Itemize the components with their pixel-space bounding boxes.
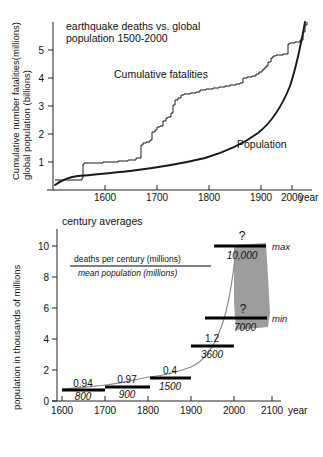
legend-denominator: mean population (millions) — [78, 268, 177, 278]
bar-denominator-1600-1700: 800 — [75, 391, 92, 402]
top-chart-xlabel: year — [299, 192, 319, 203]
bar-numerator-1900-2000: 1.2 — [205, 333, 219, 344]
bar-denominator-min: 7000 — [234, 322, 257, 333]
min-label: min — [272, 313, 287, 324]
top-chart-ylabel-line1: Cumulative number fatalities(millions) — [10, 22, 21, 180]
figure-container: Cumulative number fatalities(millions) g… — [0, 0, 323, 457]
top-chart-xtick-1800: 1800 — [198, 192, 221, 203]
legend-numerator: deaths per century (millions) — [74, 254, 181, 264]
bar-denominator-1900-2000: 3600 — [201, 349, 224, 360]
bottom-chart-xtick-1600: 1600 — [51, 405, 74, 416]
max-label: max — [272, 241, 291, 252]
bottom-chart-xtick-2000: 2000 — [223, 405, 246, 416]
bottom-chart-ytick-2: 2 — [43, 365, 49, 376]
population-curve — [55, 22, 305, 185]
top-chart-title-line1: earthquake deaths vs. global — [66, 20, 200, 32]
top-chart-y-ticks: 1 2 3 4 5 — [38, 45, 53, 168]
top-chart-xtick-1700: 1700 — [146, 192, 169, 203]
legend-fraction: deaths per century (millions) mean popul… — [70, 254, 211, 278]
top-chart-ylabel-line2: global population (billions) — [21, 70, 32, 180]
top-chart-ylabel: Cumulative number fatalities(millions) g… — [10, 22, 32, 180]
top-chart-xtick-1600: 1600 — [94, 192, 117, 203]
bottom-chart-xlabel: year — [288, 405, 308, 416]
top-chart-ytick-3: 3 — [38, 101, 44, 112]
bottom-chart-title: century averages — [62, 215, 143, 227]
bottom-chart-ytick-0: 0 — [43, 396, 49, 407]
population-label: Population — [237, 138, 287, 150]
bottom-chart-ytick-10: 10 — [38, 241, 50, 252]
bottom-chart-ytick-6: 6 — [43, 303, 49, 314]
bar-numerator-min: ? — [240, 302, 247, 316]
cumulative-fatalities-curve — [55, 22, 307, 180]
bottom-chart-ylabel: population in thousands of millions — [11, 265, 22, 410]
bar-denominator-max: 10,000 — [227, 250, 258, 261]
top-chart-ytick-4: 4 — [38, 73, 44, 84]
bar-numerator-max: ? — [239, 229, 246, 243]
top-chart-panel: Cumulative number fatalities(millions) g… — [0, 0, 323, 205]
bottom-chart-xtick-1900: 1900 — [180, 405, 203, 416]
bar-numerator-1800-1900: 0.4 — [163, 365, 177, 376]
top-chart-x-ticks: 1600 1700 1800 1900 2000 year — [94, 185, 319, 203]
top-chart-xtick-1900: 1900 — [250, 192, 273, 203]
bar-denominator-1800-1900: 1500 — [159, 381, 182, 392]
bottom-chart-y-ticks: 0 2 4 6 8 10 — [38, 241, 57, 407]
bottom-chart-panel: population in thousands of millions cent… — [0, 205, 323, 457]
top-chart-ytick-1: 1 — [38, 157, 44, 168]
bottom-chart-xtick-2100: 2100 — [261, 405, 284, 416]
bottom-chart-xtick-1800: 1800 — [137, 405, 160, 416]
bar-denominator-1700-1800: 900 — [119, 389, 136, 400]
top-chart-ytick-5: 5 — [38, 45, 44, 56]
top-chart-title-line2: population 1500-2000 — [66, 32, 168, 44]
top-chart-ytick-2: 2 — [38, 129, 44, 140]
bar-numerator-1600-1700: 0.94 — [73, 378, 93, 389]
bottom-chart-ytick-8: 8 — [43, 272, 49, 283]
bar-numerator-1700-1800: 0.97 — [117, 374, 137, 385]
bottom-chart-ytick-4: 4 — [43, 334, 49, 345]
cumulative-fatalities-label: Cumulative fatalities — [114, 68, 208, 80]
bottom-chart-xtick-1700: 1700 — [94, 405, 117, 416]
